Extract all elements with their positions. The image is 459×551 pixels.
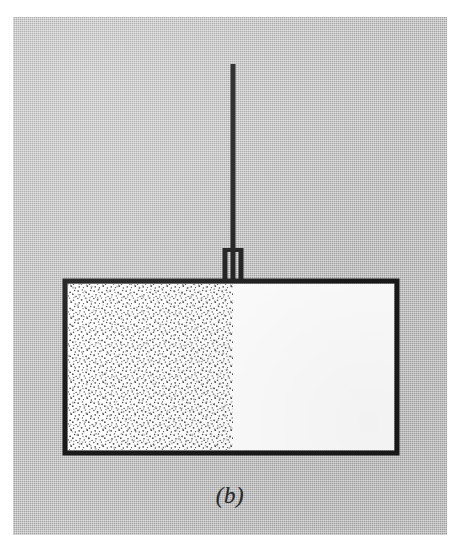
scanned-page-panel: (b)	[13, 17, 447, 535]
gas-region	[68, 284, 233, 450]
figure-label: (b)	[13, 483, 447, 509]
apparatus-diagram	[13, 17, 447, 535]
diagram-svg	[13, 17, 447, 535]
figure-root: (b)	[0, 0, 459, 551]
evacuated-region	[233, 284, 394, 450]
